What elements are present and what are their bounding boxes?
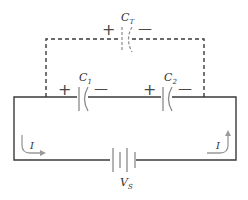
ct-label: CT xyxy=(121,11,135,26)
current-left: I xyxy=(22,135,46,156)
wire-left xyxy=(14,97,110,160)
ct-plus-sign: + xyxy=(102,20,115,39)
arrowhead-right-icon xyxy=(40,150,46,156)
circuit-diagram: + — CT + — C1 + — C2 VS xyxy=(0,0,248,200)
main-loop xyxy=(14,97,236,160)
current-right: I xyxy=(207,130,231,153)
capacitor-c2-icon xyxy=(163,87,172,111)
arrowhead-up-icon xyxy=(225,130,231,136)
c1-label: C1 xyxy=(79,71,92,86)
ct-minus-sign: — xyxy=(138,20,152,36)
vs-label: VS xyxy=(120,176,133,191)
current-left-label: I xyxy=(29,140,35,151)
c2-minus-sign: — xyxy=(178,80,192,96)
voltage-source: VS xyxy=(113,148,135,191)
capacitor-c2: + — C2 xyxy=(143,71,192,111)
capacitor-c1: + — C1 xyxy=(58,71,108,111)
current-right-label: I xyxy=(215,140,221,151)
c1-minus-sign: — xyxy=(94,80,108,96)
c2-plus-sign: + xyxy=(143,80,156,99)
c1-plus-sign: + xyxy=(58,80,71,99)
capacitor-c1-icon xyxy=(79,87,88,111)
c2-label: C2 xyxy=(164,71,177,86)
wire-right xyxy=(136,97,236,160)
battery-icon xyxy=(113,148,135,172)
capacitor-ct-icon xyxy=(122,27,132,52)
